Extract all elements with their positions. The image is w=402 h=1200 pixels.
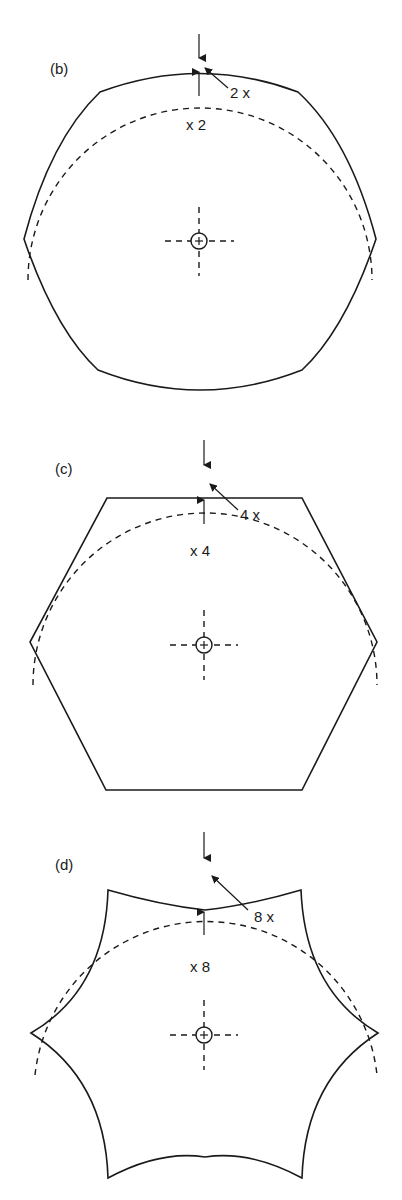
reference-circle-d <box>35 922 377 1075</box>
figure-canvas: (b) 2 x x 2 (c) 4 x x 4 <box>0 0 402 1200</box>
callout-label-c: 4 x <box>240 506 261 523</box>
panel-d: (d) 8 x x 8 <box>31 832 378 1178</box>
reference-circle-b <box>28 108 372 280</box>
panel-c-label: (c) <box>55 460 73 477</box>
callout-label-d: 8 x <box>254 908 275 925</box>
callout-arrow-d <box>212 876 248 910</box>
panel-b: (b) 2 x x 2 <box>24 34 376 390</box>
callout-arrow-c <box>210 484 238 510</box>
center-mark-d <box>170 1000 238 1070</box>
panel-c: (c) 4 x x 4 <box>30 440 377 790</box>
panel-d-label: (d) <box>55 856 73 873</box>
inner-label-c: x 4 <box>190 542 210 559</box>
callout-label-b: 2 x <box>230 84 251 101</box>
center-mark-c <box>170 610 238 680</box>
inner-label-d: x 8 <box>190 958 210 975</box>
inner-label-b: x 2 <box>186 116 206 133</box>
panel-b-label: (b) <box>50 60 68 77</box>
center-mark-b <box>165 207 234 276</box>
callout-arrow-b <box>205 68 228 88</box>
